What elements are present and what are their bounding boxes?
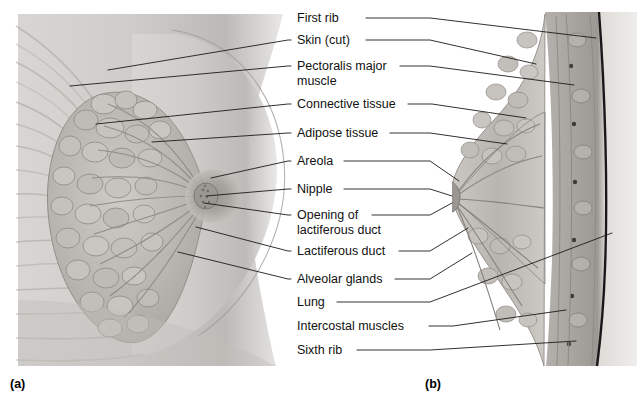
label-first-rib: First rib <box>297 11 339 25</box>
label-alveolar-glands: Alveolar glands <box>297 272 382 286</box>
caption-a: (a) <box>10 377 25 391</box>
label-connective-tissue: Connective tissue <box>297 97 396 111</box>
label-skin-cut: Skin (cut) <box>297 33 350 47</box>
caption-b: (b) <box>425 377 441 391</box>
label-areola: Areola <box>297 154 333 168</box>
label-adipose-tissue: Adipose tissue <box>297 126 378 140</box>
label-lung: Lung <box>297 295 325 309</box>
panel-a-illustration <box>16 14 285 366</box>
label-lactiferous-duct: Lactiferous duct <box>297 244 386 258</box>
label-intercostal-muscles: Intercostal muscles <box>297 319 404 333</box>
label-nipple: Nipple <box>297 182 332 196</box>
label-sixth-rib: Sixth rib <box>297 343 342 357</box>
breast-anatomy-figure: First ribSkin (cut)Pectoralis majormuscl… <box>0 0 640 403</box>
